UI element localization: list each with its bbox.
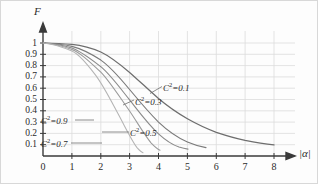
y-axis-label: F: [34, 6, 41, 17]
vertical-gridlines: [72, 31, 274, 156]
curve-annotation-c2-0.9: C2=0.9: [41, 115, 68, 126]
x-tick-label-0: 0: [36, 162, 50, 172]
y-tick-label-0.3: 0.3: [15, 118, 37, 128]
curve-annotation-c2-0.7: C2=0.7: [41, 138, 68, 149]
curve-annotation-c2-0.5: C2=0.5: [130, 127, 157, 138]
x-axis-label: |α|: [299, 148, 311, 159]
y-tick-label-0.4: 0.4: [15, 106, 37, 116]
x-tick-label-7: 7: [238, 162, 252, 172]
y-tick-label-0.5: 0.5: [15, 95, 37, 105]
y-tick-label-0.1: 0.1: [15, 140, 37, 150]
curve-annotation-c2-0.3: C2=0.3: [135, 96, 162, 107]
y-tick-label-1: 1: [15, 39, 37, 49]
y-tick-label-0.8: 0.8: [15, 61, 37, 71]
x-tick-label-5: 5: [180, 162, 194, 172]
x-tick-label-6: 6: [209, 162, 223, 172]
x-tick-label-8: 8: [267, 162, 281, 172]
x-tick-label-1: 1: [65, 162, 79, 172]
y-tick-label-0.6: 0.6: [15, 84, 37, 94]
x-tick-label-3: 3: [123, 162, 137, 172]
chart-plot-area: [1, 1, 318, 184]
y-tick-label-0.2: 0.2: [15, 129, 37, 139]
curve-annotation-c2-0.1: C2=0.1: [163, 82, 190, 93]
c-value-0.5: =0.5: [139, 128, 156, 138]
y-tick-label-0.9: 0.9: [15, 50, 37, 60]
c-value-0.3: =0.3: [144, 97, 161, 107]
c-value-0.1: =0.1: [172, 83, 189, 93]
x-tick-label-4: 4: [152, 162, 166, 172]
x-tick-label-2: 2: [94, 162, 108, 172]
chart-figure: F |α| 1 0.9 0.8 0.7 0.6 0.5 0.4 0.3 0.2 …: [0, 0, 318, 184]
y-tick-label-0.7: 0.7: [15, 72, 37, 82]
c-value-0.7: =0.7: [50, 139, 67, 149]
c-value-0.9: =0.9: [50, 116, 67, 126]
